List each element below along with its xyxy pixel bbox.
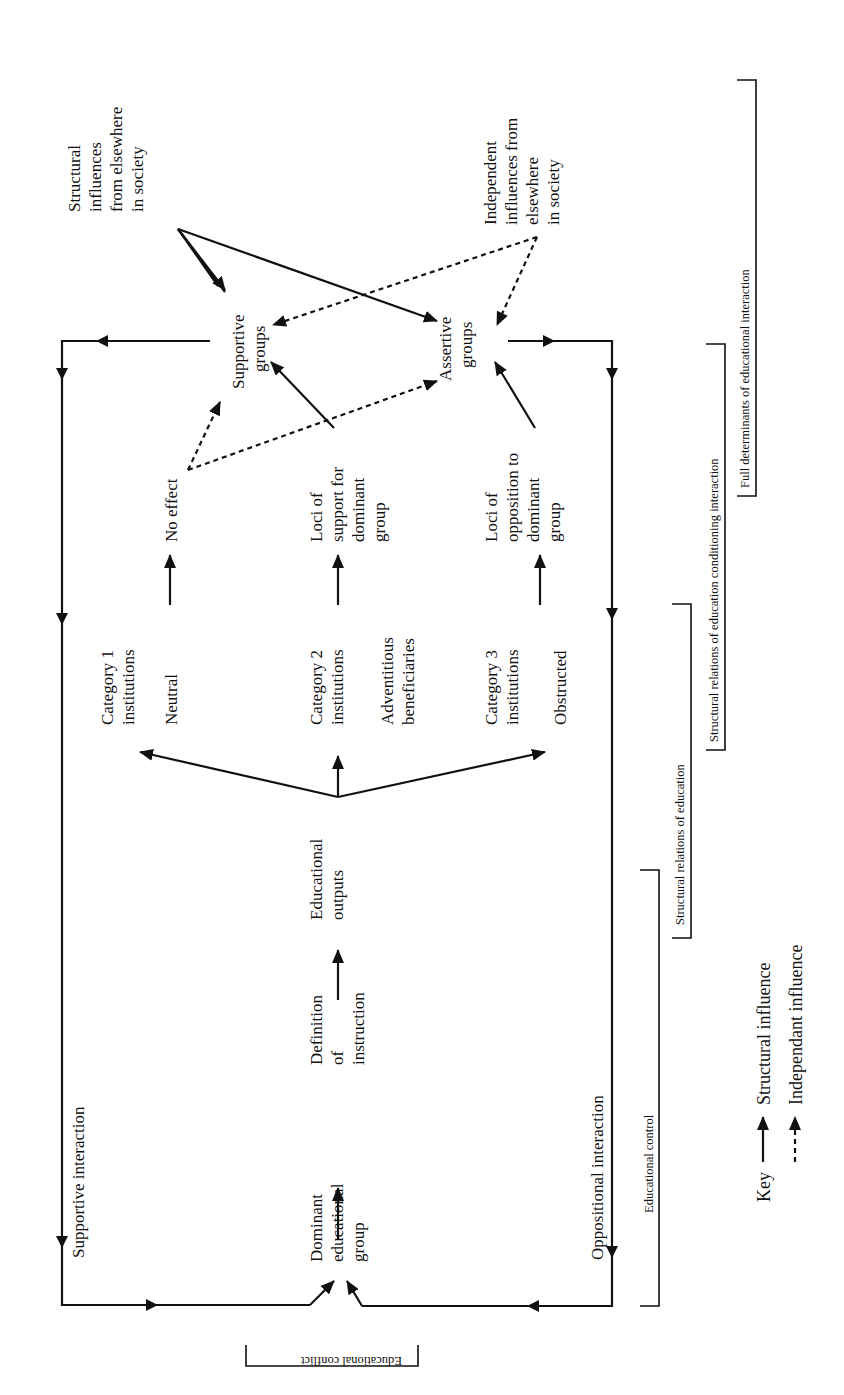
bracket-educational-conflict: Educational conflict [300, 1354, 402, 1368]
label-oppositional-interaction: Oppositional interaction [588, 1095, 607, 1260]
bracket-full-determinants: Full determinants of educational interac… [738, 269, 752, 488]
node-independent-influences: Independent influences from elsewhere in… [481, 114, 563, 225]
label-supportive-interaction: Supportive interaction [69, 1106, 88, 1258]
node-adventitious: Adventitious beneficiaries [378, 633, 418, 725]
node-category3: Category 3 institutions [482, 646, 522, 725]
structural-arrows [140, 229, 545, 1240]
node-category1: Category 1 institutions [98, 646, 138, 725]
node-structural-influences: Structural influences from elsewhere in … [65, 102, 147, 212]
node-definition: Definition of instruction [307, 991, 368, 1065]
bracket-structural-relations: Structural relations of education [673, 764, 687, 925]
node-loci-support: Loci of support for dominant group [307, 463, 389, 542]
legend-structural: Structural influence [754, 963, 774, 1105]
node-obstructed: Obstructed [551, 650, 570, 725]
legend-independent: Independant influence [786, 945, 806, 1105]
node-educational-outputs: Educational outputs [307, 835, 347, 920]
legend-title: Key [754, 1172, 774, 1202]
node-no-effect: No effect [162, 478, 181, 542]
node-dominant-group: Dominant educational group [307, 1179, 368, 1262]
legend [763, 1117, 795, 1162]
node-loci-opposition: Loci of opposition to dominant group [482, 448, 564, 542]
diagram-canvas: Dominant educational group Definition of… [0, 0, 844, 1395]
bracket-structural-relations-conditioning: Structural relations of education condit… [707, 458, 721, 742]
node-category2: Category 2 institutions [307, 646, 347, 725]
node-supportive-groups: Supportive groups [229, 310, 269, 389]
node-assertive-groups: Assertive groups [436, 313, 476, 381]
bracket-educational-control: Educational control [642, 1114, 656, 1213]
node-neutral: Neutral [162, 674, 181, 725]
